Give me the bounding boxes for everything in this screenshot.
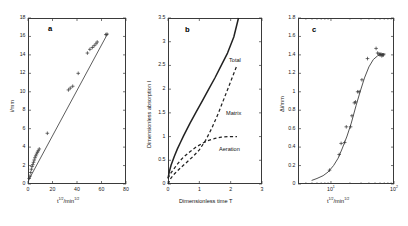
panel-c-ytick-label: 0.6	[268, 126, 296, 131]
data-point-marker	[67, 88, 71, 92]
figure-container: a t1/2/min1/2 i/mm 020406080024681012141…	[0, 0, 408, 226]
panel-a-xtick-label: 0	[27, 187, 30, 192]
data-point-marker	[35, 152, 39, 156]
panel-a-xtick-label: 80	[123, 187, 129, 192]
curve-label-total: Total	[229, 57, 241, 63]
data-point-marker	[92, 44, 96, 48]
panel-a-ytick-label: 10	[0, 89, 26, 94]
panel-b-xtick-label: 3	[261, 187, 264, 192]
data-point-marker	[343, 141, 347, 145]
panel-b-xtick-label: 1	[198, 187, 201, 192]
panel-c-ytick-label: 1	[268, 89, 296, 94]
data-point-marker	[34, 154, 38, 158]
panel-c-ytick-label: 1.4	[268, 52, 296, 57]
data-point-marker	[71, 84, 75, 88]
data-point-marker	[30, 167, 34, 171]
data-point-marker	[31, 163, 35, 167]
panel-a-ytick-label: 16	[0, 34, 26, 39]
data-point-marker	[76, 72, 80, 76]
series-matrix	[168, 65, 237, 184]
panel-b-xtick-label: 0	[167, 187, 170, 192]
panel-b-ytick-label: 3	[133, 39, 166, 44]
panel-c-xtick-label: 101	[327, 187, 335, 192]
series-total	[168, 18, 239, 178]
data-point-marker	[91, 46, 95, 50]
panel-a-ytick-label: 6	[0, 126, 26, 131]
panel-b-ytick-label: 0.5	[133, 158, 166, 163]
panel-c-ytick-label: 0.2	[268, 163, 296, 168]
panel-a-xtick-label: 20	[50, 187, 56, 192]
panel-a-letter: a	[48, 24, 52, 33]
panel-c-xtick-label: 102	[390, 187, 398, 192]
panel-b-ytick-label: 0	[133, 181, 166, 186]
panel-a-ytick-label: 8	[0, 108, 26, 113]
panel-c-ytick-label: 0	[268, 181, 296, 186]
data-point-marker	[33, 156, 37, 160]
data-point-marker	[374, 47, 378, 51]
data-point-marker	[32, 158, 36, 162]
panel-a-xtick-label: 60	[99, 187, 105, 192]
series-aeration	[168, 137, 237, 179]
data-point-marker	[32, 161, 36, 165]
panel-c-ytick-label: 1.8	[268, 15, 296, 20]
panel-a-ytick-label: 4	[0, 145, 26, 150]
data-point-marker	[339, 142, 343, 146]
panel-c-letter: c	[312, 25, 316, 34]
curve-label-matrix: Matrix	[226, 110, 241, 116]
data-point-marker	[86, 51, 90, 55]
panel-b-xaxis-label: Dimensionless time T	[179, 198, 232, 204]
panel-c-xaxis-label: t1/2/min1/2	[327, 198, 349, 204]
panel-a-ytick-label: 18	[0, 15, 26, 20]
curve-label-aeration: Aeration	[219, 146, 240, 152]
data-point-marker	[88, 48, 92, 52]
panel-b-ytick-label: 1.5	[133, 110, 166, 115]
panel-c-ytick-label: 0.4	[268, 145, 296, 150]
panel-a-ytick-label: 14	[0, 52, 26, 57]
panel-b-ytick-label: 3.5	[133, 15, 166, 20]
data-point-marker	[366, 57, 370, 61]
panel-b-ytick-label: 1	[133, 134, 166, 139]
panel-c: c t1/2/min1/2 Δi/mm 10110200.20.40.60.81…	[268, 0, 408, 226]
panel-c-ytick-label: 0.8	[268, 108, 296, 113]
panel-c-ytick-label: 1.6	[268, 34, 296, 39]
panel-a-xaxis-label: t1/2/min1/2	[57, 198, 79, 204]
panel-a-xtick-label: 40	[74, 187, 80, 192]
panel-a: a t1/2/min1/2 i/mm 020406080024681012141…	[0, 0, 140, 226]
data-point-marker	[344, 125, 348, 129]
panel-b-xtick-label: 2	[229, 187, 232, 192]
panel-a-ytick-label: 12	[0, 71, 26, 76]
panel-b: b Dimensionless time T Dimensionless abs…	[133, 0, 273, 226]
panel-b-ytick-label: 2	[133, 87, 166, 92]
panel-c-ytick-label: 1.2	[268, 71, 296, 76]
data-point-marker	[68, 86, 72, 90]
panel-b-ytick-label: 2.5	[133, 63, 166, 68]
panel-a-ytick-label: 2	[0, 163, 26, 168]
data-point-marker	[46, 131, 50, 135]
panel-b-letter: b	[185, 25, 190, 34]
panel-a-ytick-label: 0	[0, 181, 26, 186]
